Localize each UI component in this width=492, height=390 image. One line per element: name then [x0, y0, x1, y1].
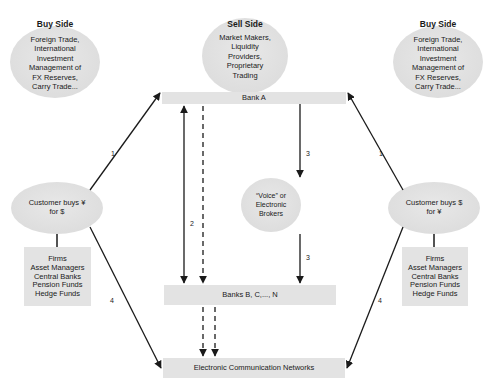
text-line: for $ [12, 207, 102, 216]
flow-label-4-left: 4 [110, 297, 114, 304]
text-line: Customer buys $ [389, 198, 479, 207]
text-line: Market Makers, [200, 33, 290, 42]
ecn-label: Electronic Communication Networks [163, 363, 345, 372]
text-line: Management of [10, 63, 100, 72]
customer-left-text: Customer buys ¥ for $ [12, 198, 102, 217]
list-item: Hedge Funds [24, 290, 91, 299]
flow-label-3-top: 3 [306, 150, 310, 157]
text-line: Trading [200, 71, 290, 80]
arrow-left-to-ecn [90, 227, 161, 368]
customer-right-text: Customer buys $ for ¥ [389, 198, 479, 217]
text-line: International [393, 44, 483, 53]
arrow-right-to-bank-a [348, 93, 403, 190]
sell-side-title: Sell Side [195, 19, 295, 29]
text-line: Foreign Trade, [393, 35, 483, 44]
text-line: Providers, [200, 52, 290, 61]
arrow-left-to-bank-a [90, 93, 160, 190]
text-line: Investment [393, 54, 483, 63]
flow-label-2: 2 [190, 220, 194, 227]
flow-label-1-left: 1 [111, 150, 115, 157]
firms-right-list: Firms Asset Managers Central Banks Pensi… [402, 255, 468, 299]
left-buy-side-text: Foreign Trade, International Investment … [10, 35, 100, 91]
flow-label-4-right: 4 [378, 297, 382, 304]
sell-side-text: Market Makers, Liquidity Providers, Prop… [200, 33, 290, 80]
text-line: FX Reserves, [10, 73, 100, 82]
text-line: Investment [10, 54, 100, 63]
text-line: Customer buys ¥ [12, 198, 102, 207]
banks-bcn-label: Banks B, C,..., N [164, 290, 336, 299]
right-buy-side-title: Buy Side [388, 19, 488, 29]
text-line: Management of [393, 63, 483, 72]
voice-brokers-text: “Voice” or Electronic Brokers [236, 191, 306, 218]
text-line: for ¥ [389, 207, 479, 216]
flow-label-1-right: 1 [379, 150, 383, 157]
text-line: Liquidity [200, 42, 290, 51]
text-line: FX Reserves, [393, 73, 483, 82]
flow-label-3-bottom: 3 [306, 254, 310, 261]
text-line: Electronic [236, 200, 306, 209]
firms-left-list: Firms Asset Managers Central Banks Pensi… [24, 255, 91, 299]
text-line: International [10, 44, 100, 53]
left-buy-side-title: Buy Side [5, 19, 105, 29]
arrow-right-to-ecn [347, 227, 403, 368]
text-line: Brokers [236, 209, 306, 218]
text-line: “Voice” or [236, 191, 306, 200]
right-buy-side-text: Foreign Trade, International Investment … [393, 35, 483, 91]
text-line: Foreign Trade, [10, 35, 100, 44]
bank-a-label: Bank A [162, 93, 346, 102]
text-line: Carry Trade... [393, 82, 483, 91]
text-line: Proprietary [200, 61, 290, 70]
text-line: Carry Trade... [10, 82, 100, 91]
list-item: Hedge Funds [402, 290, 468, 299]
